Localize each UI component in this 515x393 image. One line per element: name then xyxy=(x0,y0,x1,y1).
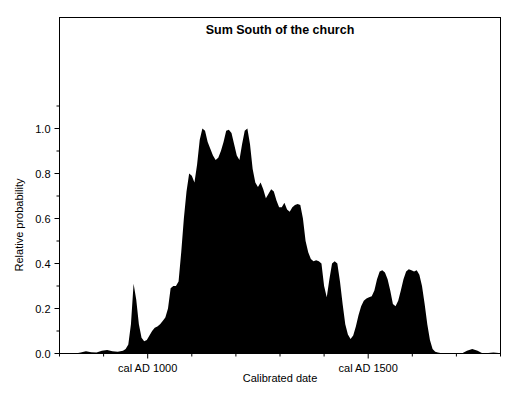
x-axis-title: Calibrated date xyxy=(243,372,318,384)
chart-figure: Sum South of the church 0.00.20.40.60.81… xyxy=(0,0,515,393)
y-axis-tick-label: 1.0 xyxy=(35,123,50,135)
y-axis-tick-label: 0.8 xyxy=(35,168,50,180)
y-axis-tick-label: 0.6 xyxy=(35,213,50,225)
y-axis-tick-label: 0.0 xyxy=(35,348,50,360)
y-axis-title: Relative probability xyxy=(13,178,25,271)
x-axis-tick-label: cal AD 1500 xyxy=(339,362,398,374)
y-axis-tick-label: 0.2 xyxy=(35,303,50,315)
x-axis-tick-label: cal AD 1000 xyxy=(118,362,177,374)
y-axis-tick-label: 0.4 xyxy=(35,258,50,270)
chart-title: Sum South of the church xyxy=(206,23,355,37)
chart-canvas: Sum South of the church 0.00.20.40.60.81… xyxy=(0,0,515,393)
